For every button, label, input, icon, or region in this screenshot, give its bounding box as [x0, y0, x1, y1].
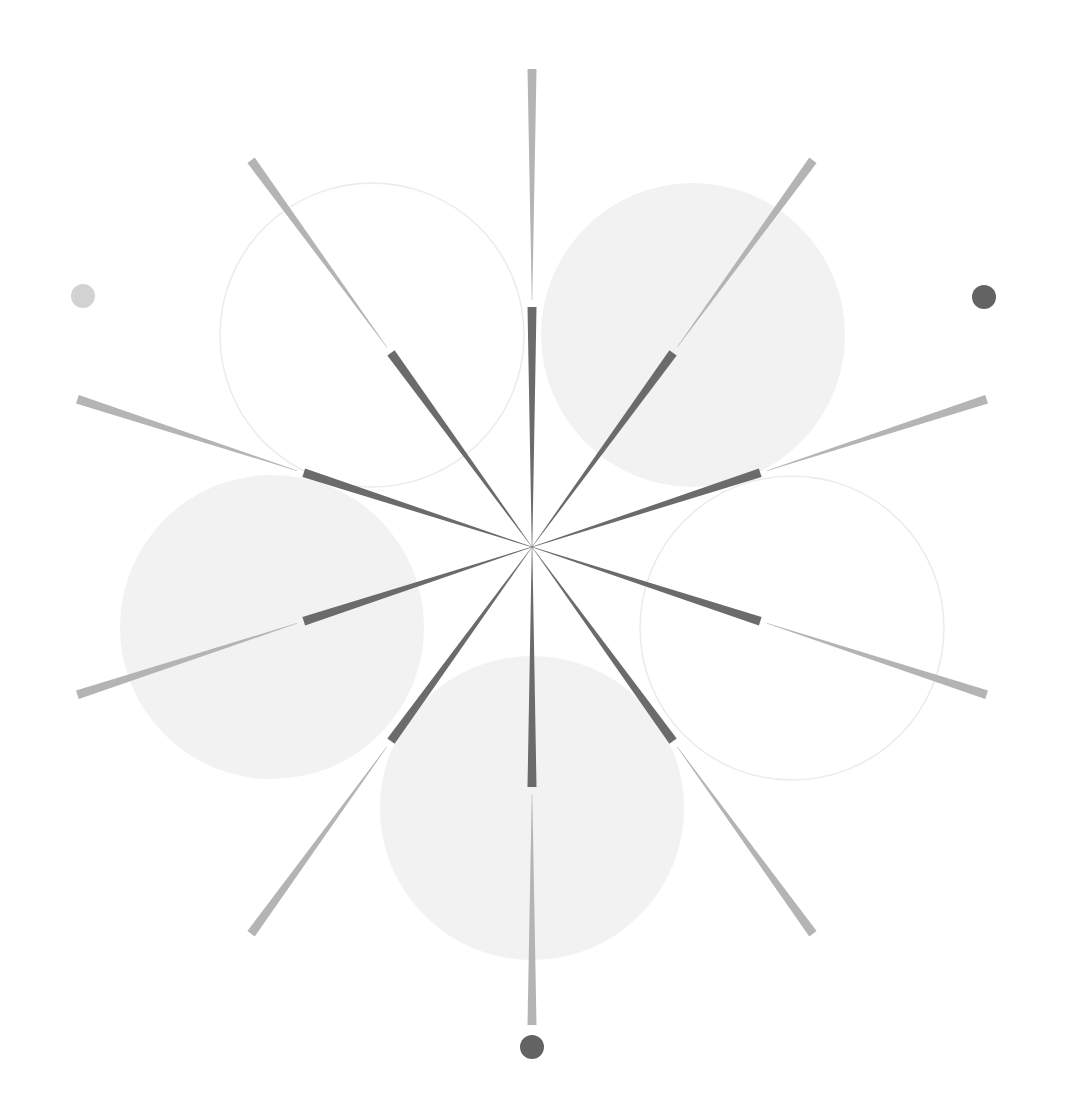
dot-bottom	[520, 1035, 544, 1059]
dot-left	[71, 284, 95, 308]
circle-top-right	[541, 183, 845, 487]
circle-left	[120, 475, 424, 779]
radial-illustration	[0, 0, 1073, 1105]
dot-right	[972, 285, 996, 309]
